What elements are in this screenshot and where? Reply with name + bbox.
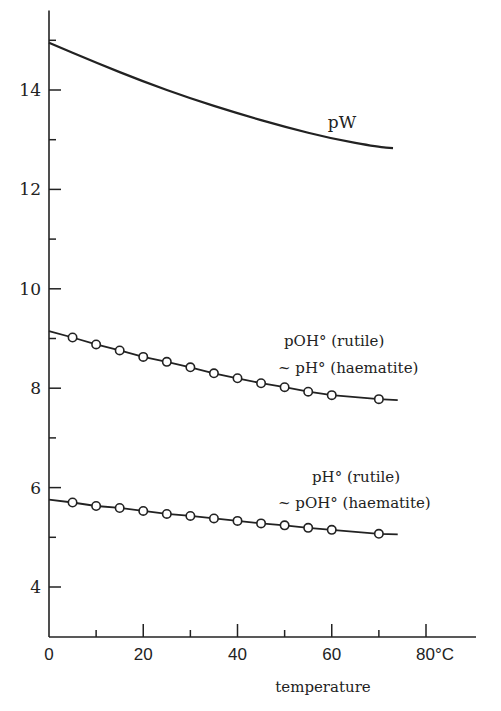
y-tick-label: 8 (30, 378, 41, 398)
data-point (375, 530, 383, 538)
y-tick-label: 4 (30, 577, 41, 597)
data-point (375, 395, 383, 403)
data-point (257, 379, 265, 387)
series-line-pW (49, 43, 393, 148)
data-point (280, 383, 288, 391)
data-point (163, 510, 171, 518)
x-tick-label: 80°C (416, 645, 454, 664)
x-tick-label: 20 (134, 645, 153, 664)
y-tick-label: 12 (19, 179, 41, 199)
data-point (115, 504, 123, 512)
data-point (139, 353, 147, 361)
series-label-poh-rutile-line1: pOH° (rutile) (284, 332, 384, 350)
series-label-ph-rutile-line1: pH° (rutile) (312, 468, 400, 486)
data-point (186, 512, 194, 520)
data-point (210, 514, 218, 522)
data-point (139, 507, 147, 515)
data-point (328, 391, 336, 399)
y-tick-label: 14 (19, 80, 41, 100)
data-point (210, 369, 218, 377)
data-point (68, 498, 76, 506)
x-tick-label: 60 (322, 645, 341, 664)
data-point (92, 340, 100, 348)
x-tick-label: 40 (228, 645, 247, 664)
x-tick-label: 0 (44, 645, 53, 664)
chart: 468101214020406080°CtemperaturepWpOH° (r… (0, 0, 501, 711)
data-point (115, 346, 123, 354)
series-label-ph-rutile-line2: ~ pOH° (haematite) (278, 494, 431, 512)
data-point (257, 519, 265, 527)
data-point (328, 526, 336, 534)
data-point (304, 387, 312, 395)
data-point (186, 363, 194, 371)
series-label-poh-rutile-line2: ~ pH° (haematite) (278, 359, 418, 377)
data-point (233, 374, 241, 382)
data-point (280, 521, 288, 529)
series-label-pW: pW (328, 112, 357, 132)
data-point (233, 517, 241, 525)
data-point (92, 502, 100, 510)
y-tick-label: 6 (30, 478, 41, 498)
data-point (163, 358, 171, 366)
x-axis-label: temperature (275, 678, 371, 696)
data-point (304, 524, 312, 532)
data-point (68, 333, 76, 341)
y-tick-label: 10 (19, 279, 41, 299)
